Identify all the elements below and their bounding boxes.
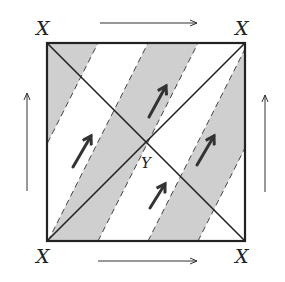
label-top-left: X bbox=[34, 17, 51, 39]
shaded-stripes bbox=[0, 43, 285, 241]
label-top-right: X bbox=[233, 17, 250, 39]
label-bottom-left: X bbox=[34, 245, 51, 267]
label-center: Y bbox=[141, 154, 153, 172]
flow-arrow-lower-center bbox=[150, 184, 165, 208]
diagram: X X X X Y bbox=[0, 0, 285, 282]
label-bottom-right: X bbox=[233, 245, 250, 267]
